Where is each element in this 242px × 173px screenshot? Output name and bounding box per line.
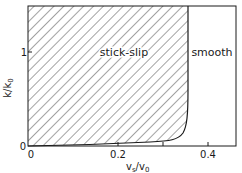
y-tick-label-1: 1 xyxy=(21,47,27,58)
region-label-stick-slip: stick-slip xyxy=(100,46,148,59)
phase-diagram: 0 0.2 0.4 0 1 stick-slip smooth vs/v0 k/… xyxy=(0,0,242,173)
stick-slip-region xyxy=(28,6,188,146)
y-axis-label: k/k0 xyxy=(2,78,15,97)
x-tick-label-0.4: 0.4 xyxy=(200,149,216,160)
x-tick-label-0.2: 0.2 xyxy=(110,149,126,160)
x-axis-label: vs/v0 xyxy=(126,161,149,173)
svg-text:k/k0: k/k0 xyxy=(2,78,15,97)
svg-text:vs/v0: vs/v0 xyxy=(126,161,149,173)
y-tick-label-0: 0 xyxy=(20,141,26,152)
x-tick-label-0: 0 xyxy=(28,149,34,160)
region-label-smooth: smooth xyxy=(191,46,232,59)
